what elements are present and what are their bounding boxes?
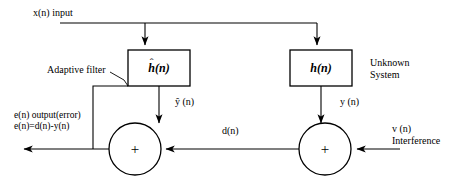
h-base-letter: h	[310, 61, 317, 76]
error-signal-label: e(n) output(error) e(n)=d(n)-y(n)	[14, 110, 81, 132]
diagram-vector-layer	[0, 0, 457, 182]
error-signal-label-line2: e(n)=d(n)-y(n)	[14, 121, 81, 132]
unknown-system-symbol: h(n)	[290, 50, 352, 86]
interference-label-line1: v (n)	[392, 123, 411, 134]
h-hat-argument: (n)	[155, 61, 170, 76]
adaptive-filter-caption: Adaptive filter	[47, 64, 106, 76]
interference-label: v (n) Interference	[392, 123, 440, 146]
hat-accent-icon: ˆ	[150, 57, 154, 68]
adaptive-filter-leader-line	[110, 72, 128, 86]
error-junction-plus-sign: +	[128, 142, 142, 156]
unknown-system-caption: Unknown System	[370, 57, 409, 80]
block-diagram-canvas: ˆh(n) h(n) + + x(n) input Adaptive filte…	[0, 0, 457, 182]
h-hat-glyph-wrap: ˆh	[148, 61, 155, 76]
h-argument: (n)	[317, 61, 332, 76]
adaptive-filter-symbol: ˆh(n)	[128, 50, 190, 86]
unknown-system-caption-line1: Unknown	[370, 57, 409, 68]
filter-output-label: ŷ (n)	[175, 96, 194, 108]
interference-label-line2: Interference	[392, 135, 440, 146]
output-junction-plus-sign: +	[318, 142, 332, 156]
system-output-label: y (n)	[340, 96, 359, 108]
unknown-system-caption-line2: System	[370, 69, 399, 80]
error-signal-label-line1: e(n) output(error)	[14, 110, 81, 121]
input-signal-label: x(n) input	[33, 7, 73, 19]
desired-signal-label: d(n)	[222, 125, 239, 137]
